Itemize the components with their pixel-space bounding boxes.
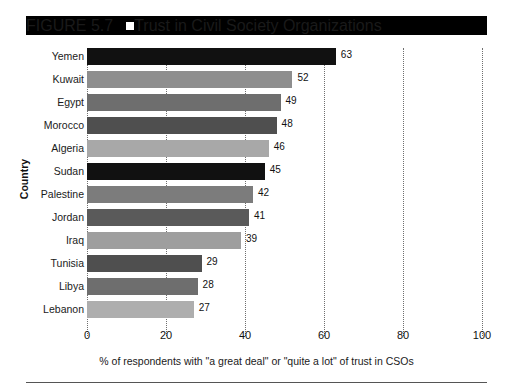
bar-chart: Country 635249484645424139292827 % of re… bbox=[0, 35, 513, 389]
bar-kuwait bbox=[87, 71, 292, 88]
category-label-algeria: Algeria bbox=[0, 142, 84, 154]
bar-tunisia bbox=[87, 255, 202, 272]
x-tick-label: 60 bbox=[318, 329, 330, 341]
category-label-jordan: Jordan bbox=[0, 211, 84, 223]
bar-value-label: 63 bbox=[341, 49, 352, 60]
bar-row: 52 bbox=[87, 71, 482, 88]
gridline-100 bbox=[482, 48, 483, 336]
bar-palestine bbox=[87, 186, 253, 203]
bar-value-label: 46 bbox=[274, 141, 285, 152]
bar-row: 27 bbox=[87, 301, 482, 318]
category-label-tunisia: Tunisia bbox=[0, 257, 84, 269]
bar-yemen bbox=[87, 48, 336, 65]
bar-egypt bbox=[87, 94, 281, 111]
bar-jordan bbox=[87, 209, 249, 226]
bar-value-label: 27 bbox=[199, 302, 210, 313]
plot-area: 635249484645424139292827 bbox=[87, 48, 482, 336]
figure-header: FIGURE 5.7 Trust in Civil Society Organi… bbox=[26, 16, 487, 35]
bar-algeria bbox=[87, 140, 269, 157]
category-label-palestine: Palestine bbox=[0, 188, 84, 200]
bar-iraq bbox=[87, 232, 241, 249]
bar-value-label: 48 bbox=[282, 118, 293, 129]
category-label-iraq: Iraq bbox=[0, 234, 84, 246]
bar-value-label: 39 bbox=[246, 233, 257, 244]
bar-value-label: 45 bbox=[270, 164, 281, 175]
category-label-lebanon: Lebanon bbox=[0, 303, 84, 315]
bar-row: 41 bbox=[87, 209, 482, 226]
bar-row: 29 bbox=[87, 255, 482, 272]
x-tick-label: 80 bbox=[397, 329, 409, 341]
bar-sudan bbox=[87, 163, 265, 180]
bar-libya bbox=[87, 278, 198, 295]
filled-square-marker-icon bbox=[126, 22, 134, 30]
category-label-sudan: Sudan bbox=[0, 165, 84, 177]
bar-value-label: 29 bbox=[207, 256, 218, 267]
bar-value-label: 28 bbox=[203, 279, 214, 290]
figure-number: FIGURE 5.7 bbox=[26, 17, 113, 35]
category-label-libya: Libya bbox=[0, 280, 84, 292]
bar-value-label: 41 bbox=[254, 210, 265, 221]
bar-row: 28 bbox=[87, 278, 482, 295]
bottom-rule-divider bbox=[26, 382, 487, 383]
x-tick-label: 100 bbox=[473, 329, 491, 341]
figure-title: Trust in Civil Society Organizations bbox=[134, 17, 382, 35]
bar-value-label: 42 bbox=[258, 187, 269, 198]
bar-lebanon bbox=[87, 301, 194, 318]
x-tick-label: 20 bbox=[160, 329, 172, 341]
category-label-kuwait: Kuwait bbox=[0, 73, 84, 85]
x-axis-title: % of respondents with "a great deal" or … bbox=[0, 355, 513, 367]
bar-value-label: 52 bbox=[297, 72, 308, 83]
category-label-morocco: Morocco bbox=[0, 119, 84, 131]
bar-row: 46 bbox=[87, 140, 482, 157]
bar-row: 42 bbox=[87, 186, 482, 203]
bar-value-label: 49 bbox=[286, 95, 297, 106]
x-tick-label: 0 bbox=[84, 329, 90, 341]
bar-row: 49 bbox=[87, 94, 482, 111]
bar-row: 48 bbox=[87, 117, 482, 134]
bar-morocco bbox=[87, 117, 277, 134]
bar-row: 63 bbox=[87, 48, 482, 65]
category-label-yemen: Yemen bbox=[0, 50, 84, 62]
bar-row: 45 bbox=[87, 163, 482, 180]
category-label-egypt: Egypt bbox=[0, 96, 84, 108]
bar-row: 39 bbox=[87, 232, 482, 249]
x-tick-label: 40 bbox=[239, 329, 251, 341]
